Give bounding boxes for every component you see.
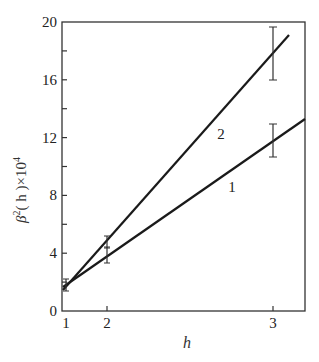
svg-text:β2( h )×104: β2( h )×104 (11, 157, 30, 224)
y-tick-0: 0 (50, 303, 58, 319)
series-2-line (63, 35, 289, 290)
x-tick-2: 2 (103, 315, 111, 331)
x-tick-3: 3 (269, 315, 277, 331)
error-bar-h3-series2 (269, 27, 277, 80)
y-tick-4: 4 (50, 245, 58, 261)
error-bars (63, 27, 277, 291)
y-tick-12: 12 (42, 130, 57, 146)
chart: 0 4 8 12 16 20 1 2 3 h β2( h )×104 2 1 (0, 0, 319, 362)
series-1-label: 1 (228, 179, 236, 195)
x-ticks (107, 306, 273, 311)
y-tick-8: 8 (50, 187, 58, 203)
series-1-line (63, 119, 305, 287)
y-tick-20: 20 (42, 14, 57, 30)
y-ticks (62, 51, 67, 282)
x-tick-1: 1 (62, 315, 70, 331)
plot-frame (62, 22, 305, 311)
y-tick-16: 16 (42, 72, 58, 88)
x-axis-title: h (183, 334, 191, 351)
series-2-label: 2 (217, 126, 225, 142)
y-axis-title: β2( h )×104 (11, 157, 30, 224)
